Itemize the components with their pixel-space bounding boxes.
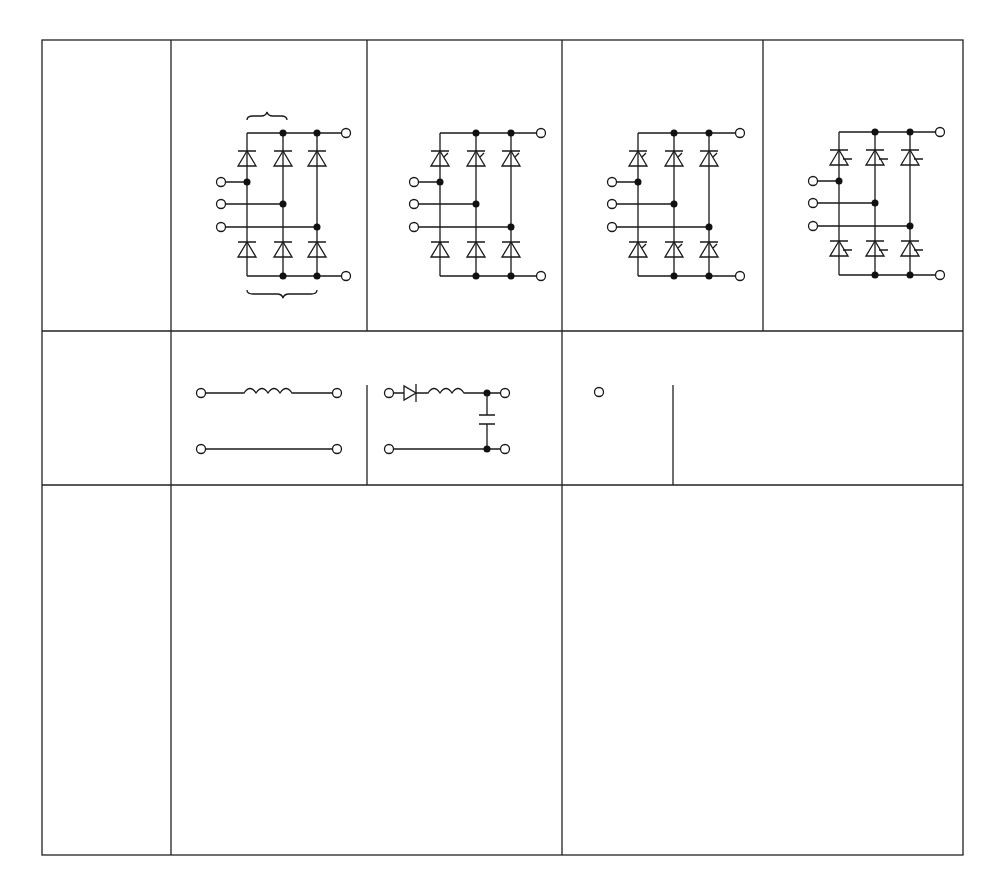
single-phase-brace-icon bbox=[247, 112, 287, 120]
diagram-1-uncontrolled-rectifier bbox=[217, 112, 351, 298]
diagram-7-lc-link bbox=[595, 388, 604, 397]
converter-topology-table bbox=[0, 0, 1000, 893]
diagram-5-inductor-link bbox=[197, 389, 342, 454]
diagram-2-half-controlled-rectifier bbox=[410, 129, 546, 281]
inductor-icon bbox=[205, 389, 333, 394]
diagram-6-diode-lc-link bbox=[385, 384, 510, 454]
three-phase-brace-icon bbox=[247, 290, 317, 298]
diagram-4-active-front-end bbox=[809, 128, 945, 280]
diagram-3-controlled-rectifier bbox=[608, 129, 745, 281]
capacitor-icon bbox=[479, 393, 495, 449]
